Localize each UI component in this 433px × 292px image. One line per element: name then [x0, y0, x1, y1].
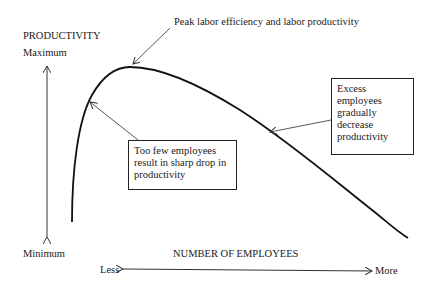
- productivity-diagram: PRODUCTIVITY Maximum Minimum Peak labor …: [0, 0, 433, 292]
- excess-line: gradually: [337, 107, 408, 119]
- employees-axis-arrow: [123, 269, 372, 271]
- peak-annotation: Peak labor efficiency and labor producti…: [174, 16, 359, 28]
- too-few-line: Too few employees: [134, 145, 231, 157]
- too-few-pointer-arrow: [90, 102, 138, 140]
- too-few-line: productivity: [134, 169, 231, 181]
- too-few-line: result in sharp drop in: [134, 157, 231, 169]
- excess-pointer-arrow: [270, 120, 331, 132]
- excess-line: productivity: [337, 131, 408, 143]
- excess-line: employees: [337, 95, 408, 107]
- x-axis-less-label: Less: [100, 264, 119, 276]
- y-axis-max-label: Maximum: [23, 47, 67, 59]
- too-few-annotation-box: Too few employees result in sharp drop i…: [128, 140, 237, 190]
- excess-line: decrease: [337, 119, 408, 131]
- x-axis-more-label: More: [375, 265, 398, 277]
- x-axis-title: NUMBER OF EMPLOYEES: [173, 248, 298, 260]
- excess-annotation-box: Excess employees gradually decrease prod…: [331, 78, 414, 155]
- y-axis-min-label: Minimum: [23, 248, 65, 260]
- excess-line: Excess: [337, 83, 408, 95]
- y-axis-title: PRODUCTIVITY: [23, 30, 101, 42]
- peak-pointer-arrow: [133, 28, 170, 64]
